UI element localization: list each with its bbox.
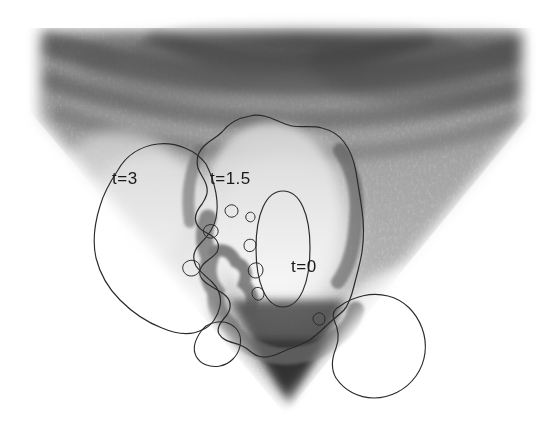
ultrasound-sector-image — [0, 0, 554, 445]
contour-label-t15: t=1.5 — [210, 169, 251, 188]
contour-label-t0: t=0 — [291, 257, 317, 276]
figure-canvas: t=3 t=1.5 t=0 — [0, 0, 554, 445]
ultrasound-figure: t=3 t=1.5 t=0 — [0, 0, 554, 445]
contour-label-t3: t=3 — [112, 169, 138, 188]
depth-gain-gradient — [0, 28, 554, 418]
